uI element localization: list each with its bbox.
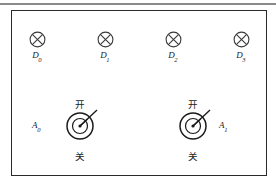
lamp-d2-label: D2 <box>156 50 190 64</box>
switch-a0-off-label: 关 <box>30 151 130 162</box>
switch-a0-name: A0 <box>32 120 41 134</box>
lamp-d3-label: D3 <box>224 50 258 64</box>
lamp-d2: D2 <box>156 31 190 64</box>
switch-a0-name-sub: 0 <box>37 126 40 133</box>
lamp-cross-circle-icon <box>165 31 182 48</box>
lamp-cross-circle-icon <box>233 31 250 48</box>
top-divider-rule <box>0 3 276 5</box>
lamp-d2-label-sub: 2 <box>174 56 177 63</box>
switch-a1-body[interactable]: A1 <box>143 110 243 140</box>
lamp-d1-label: D1 <box>88 50 122 64</box>
lamp-d1-label-sub: 1 <box>106 56 109 63</box>
switch-a1-name-sub: 1 <box>224 126 227 133</box>
lamp-d0-label-sub: 0 <box>38 56 41 63</box>
panel-frame: D0 D1 D2 <box>11 10 267 176</box>
lamp-d3-label-sub: 3 <box>242 56 245 63</box>
switch-a1-name: A1 <box>219 120 228 134</box>
lamp-d3: D3 <box>224 31 258 64</box>
lamp-d1: D1 <box>88 31 122 64</box>
switch-a1-off-label: 关 <box>143 151 243 162</box>
diagram-canvas: D0 D1 D2 <box>0 0 276 185</box>
lamp-d0: D0 <box>20 31 54 64</box>
lamp-d0-label: D0 <box>20 50 54 64</box>
switch-a1[interactable]: 开 A1 关 <box>143 99 243 162</box>
rotary-knob-icon <box>171 104 215 146</box>
switch-a0-body[interactable]: A0 <box>30 110 130 140</box>
lamp-cross-circle-icon <box>29 31 46 48</box>
rotary-knob-icon <box>58 104 102 146</box>
switch-a0[interactable]: 开 A0 关 <box>30 99 130 162</box>
lamp-cross-circle-icon <box>97 31 114 48</box>
